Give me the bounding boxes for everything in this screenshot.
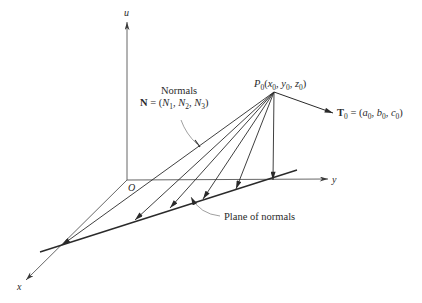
point-p0-label: P0(x0, y0, z0) [253,78,307,92]
tangent-vector [274,92,333,113]
tangent-t0-label: T0 = (a0, b0, c0) [337,107,403,121]
normals-title-label: Normals [161,85,197,96]
y-axis [127,179,328,180]
y-axis-label: y [331,174,337,185]
plane-of-normals-label: Plane of normals [224,211,295,222]
normals-tick-mark [195,140,200,147]
normal-vectors [62,92,274,245]
normal-vector [273,92,274,180]
x-axis [26,180,127,280]
origin-label: O [128,182,135,193]
normal-vector [62,92,274,245]
u-axis-label: u [124,7,129,18]
normal-plane-diagram: u y x O P0(x0, y0, z0) T0 = (a0, b0, c0)… [0,0,422,303]
x-axis-label: x [16,281,22,292]
normals-vector-label: N = (N1, N2, N3) [140,97,209,111]
normal-vector [135,92,274,220]
